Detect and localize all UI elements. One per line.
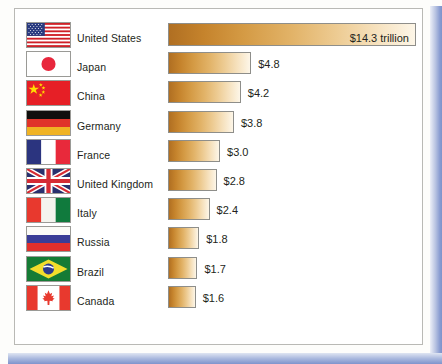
page-edge-shadow-right <box>430 6 442 364</box>
bar-value-label: $4.2 <box>248 81 269 103</box>
country-label: Japan <box>77 50 106 79</box>
bar-value-label: $3.8 <box>241 111 262 133</box>
flag-china-icon <box>26 80 71 106</box>
country-label: France <box>77 138 110 167</box>
country-label: Russia <box>77 225 110 254</box>
chart-row: Italy$2.4 <box>15 196 422 225</box>
chart-row: Brazil$1.7 <box>15 255 422 284</box>
bar-chart-card: United States$14.3 trillion Japan$4.8 Ch… <box>14 8 423 345</box>
chart-row: Japan$4.8 <box>15 50 422 79</box>
chart-row: China$4.2 <box>15 79 422 108</box>
country-label: United Kingdom <box>77 167 153 196</box>
gdp-bar <box>168 111 234 133</box>
chart-row: Canada$1.6 <box>15 284 422 313</box>
flag-germany-icon <box>26 110 71 136</box>
country-label: Brazil <box>77 255 104 284</box>
country-label: United States <box>77 21 141 50</box>
flag-brazil-icon <box>26 256 71 282</box>
chart-row: Russia$1.8 <box>15 225 422 254</box>
flag-united-states-icon <box>26 22 71 48</box>
chart-row: United States$14.3 trillion <box>15 21 422 50</box>
bar-value-label: $14.3 trillion <box>350 26 409 48</box>
bar-value-label: $2.8 <box>224 169 245 191</box>
page-edge-shadow-bottom <box>8 353 442 364</box>
gdp-bar <box>168 286 196 308</box>
gdp-bar <box>168 140 220 162</box>
chart-row: France$3.0 <box>15 138 422 167</box>
flag-france-icon <box>26 139 71 165</box>
gdp-bar <box>168 81 241 103</box>
flag-japan-icon <box>26 51 71 77</box>
country-label: China <box>77 79 105 108</box>
country-label: Canada <box>77 284 114 313</box>
gdp-bar <box>168 52 251 74</box>
scanned-page: United States$14.3 trillion Japan$4.8 Ch… <box>0 0 442 364</box>
chart-row: Germany$3.8 <box>15 109 422 138</box>
bar-chart-rows: United States$14.3 trillion Japan$4.8 Ch… <box>15 9 422 344</box>
gdp-bar <box>168 257 197 279</box>
bar-value-label: $4.8 <box>258 52 279 74</box>
country-label: Germany <box>77 109 121 138</box>
country-label: Italy <box>77 196 97 225</box>
flag-russia-icon <box>26 226 71 252</box>
chart-row: United Kingdom$2.8 <box>15 167 422 196</box>
bar-value-label: $3.0 <box>227 140 248 162</box>
bar-value-label: $1.7 <box>204 257 225 279</box>
gdp-bar <box>168 198 210 220</box>
flag-united-kingdom-icon <box>26 168 71 194</box>
bar-value-label: $2.4 <box>217 198 238 220</box>
bar-value-label: $1.6 <box>203 286 224 308</box>
gdp-bar <box>168 227 199 249</box>
bar-value-label: $1.8 <box>206 227 227 249</box>
flag-italy-icon <box>26 197 71 223</box>
flag-canada-icon <box>26 285 71 311</box>
gdp-bar <box>168 169 217 191</box>
gdp-bar: $14.3 trillion <box>168 23 416 46</box>
